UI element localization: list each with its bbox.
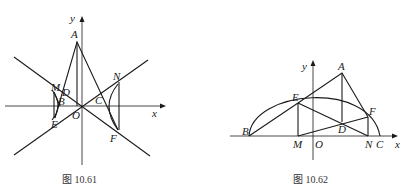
y-axis-label: y xyxy=(69,12,75,24)
triangle-AEF xyxy=(298,73,368,117)
point-label-B: B xyxy=(58,95,65,107)
point-label-O: O xyxy=(315,138,323,150)
hyperbola-right-branch xyxy=(109,84,118,130)
point-label-A: A xyxy=(70,28,78,40)
x-axis-label: x xyxy=(394,138,400,150)
point-label-M: M xyxy=(50,81,61,93)
y-axis-arrow-icon xyxy=(311,60,316,66)
figure-10-61: x y A M D B O E C N F 图 10.61 xyxy=(0,0,190,193)
y-axis-label: y xyxy=(301,60,307,72)
x-axis-label: x xyxy=(151,107,157,119)
point-label-C: C xyxy=(376,138,384,150)
figure-caption: 图 10.62 xyxy=(293,174,328,185)
point-label-N: N xyxy=(364,138,373,150)
point-label-F: F xyxy=(109,132,117,144)
figure-caption: 图 10.61 xyxy=(62,174,97,185)
point-label-F: F xyxy=(368,105,376,117)
point-label-C: C xyxy=(95,94,103,106)
x-axis-arrow-icon xyxy=(160,104,166,109)
point-label-A: A xyxy=(337,60,345,72)
point-label-M: M xyxy=(292,138,303,150)
point-label-O: O xyxy=(72,109,80,121)
point-label-E: E xyxy=(291,91,299,103)
y-axis-arrow-icon xyxy=(80,16,85,22)
point-label-E: E xyxy=(50,118,58,130)
figure-10-62: x y A E F B D M O N C 图 10.62 xyxy=(200,0,404,193)
point-label-N: N xyxy=(112,70,121,82)
point-label-B: B xyxy=(242,125,249,137)
point-label-D: D xyxy=(337,123,346,135)
asymptote-2 xyxy=(14,60,148,155)
